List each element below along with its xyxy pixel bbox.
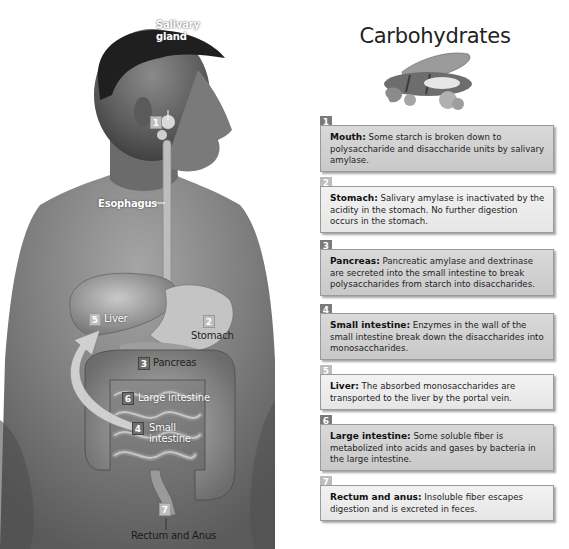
esophagus-label: Esophagus	[98, 198, 157, 209]
large-intestine-label: Large intestine	[138, 392, 210, 403]
step-organ-2: Stomach:	[330, 193, 378, 203]
step-organ-4: Small intestine:	[330, 320, 410, 330]
step-box-1: Mouth: Some starch is broken down to pol…	[320, 125, 554, 172]
badge-7: 7	[159, 503, 171, 516]
step-box-7: Rectum and anus: Insoluble fiber escapes…	[320, 485, 554, 521]
step-organ-7: Rectum and anus:	[330, 492, 422, 502]
rectum-anus-label: Rectum and Anus	[131, 530, 216, 541]
digestive-system-illustration: Salivary gland 1 Esophagus 5 Liver 2 Sto…	[0, 0, 300, 549]
step-organ-1: Mouth:	[330, 132, 366, 142]
salivary-gland-label: Salivary gland	[156, 19, 200, 43]
badge-2: 2	[203, 315, 215, 328]
badge-6: 6	[122, 392, 134, 405]
liver-label: Liver	[104, 313, 128, 324]
badge-1: 1	[150, 116, 162, 129]
step-organ-6: Large intestine:	[330, 431, 411, 441]
step-box-3: Pancreas: Pancreatic amylase and dextrin…	[320, 249, 554, 296]
step-box-4: Small intestine: Enzymes in the wall of …	[320, 313, 554, 360]
step-box-5: Liver: The absorbed monosaccharides are …	[320, 374, 554, 410]
page-title: Carbohydrates	[330, 24, 540, 48]
badge-3: 3	[138, 357, 150, 370]
badge-4: 4	[132, 422, 144, 435]
step-box-6: Large intestine: Some soluble fiber is m…	[320, 424, 554, 471]
small-intestine-label: Small intestine	[149, 422, 191, 444]
pancreas-label: Pancreas	[153, 357, 196, 368]
stomach-label: Stomach	[191, 330, 234, 341]
step-organ-5: Liver:	[330, 381, 359, 391]
step-organ-3: Pancreas:	[330, 256, 380, 266]
badge-5: 5	[89, 313, 101, 326]
step-box-2: Stomach: Salivary amylase is inactivated…	[320, 186, 554, 233]
human-torso-icon	[0, 0, 300, 549]
bread-pasta-rice-icon	[370, 48, 480, 114]
